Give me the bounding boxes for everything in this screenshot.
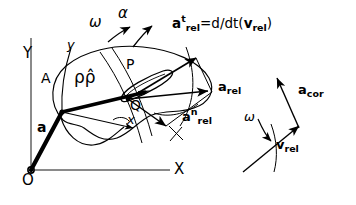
body-y-axis-label: y [67, 38, 75, 51]
a-rel-n-sub: rel [198, 115, 212, 126]
point-P-label: P [126, 57, 134, 71]
label-a-rel-n: anrel [182, 110, 212, 123]
y-axis-label: Y [23, 46, 32, 61]
inset-omega-arrow [258, 119, 271, 141]
rho-rho-hat-label: ρρ̂ [74, 69, 96, 86]
label-v-rel: vrel [276, 138, 299, 151]
a-rel-sub: rel [227, 85, 241, 96]
a-rel-n-sup: n [191, 106, 198, 117]
point-A-label: A [41, 71, 51, 85]
body-boundary-lower [61, 118, 124, 145]
vector-a-label: a [37, 120, 46, 134]
parallelogram-side-top [196, 58, 212, 92]
a-rel-symbol: a [218, 79, 227, 94]
vector-a-shaft [31, 112, 62, 170]
inset-a-cor-arrow [277, 78, 299, 128]
v-rel-sub: rel [284, 143, 298, 154]
point-Q-label: Q [130, 98, 141, 112]
body-fixed-axes [62, 48, 133, 128]
equation-a-rel-t: atrel=d/dt(vrel) [172, 17, 272, 31]
body-x-axis [62, 112, 133, 128]
coriolis-inset [243, 78, 299, 172]
body-x-axis-label: x [127, 113, 135, 126]
a-cor-sub: cor [307, 88, 324, 99]
kinematics-figure: Y X O A P Q y x ω α ρρ̂ a atrel=d/dt(vre… [0, 0, 356, 205]
label-a-rel: arel [218, 80, 241, 93]
a-rel-n-symbol: a [182, 109, 191, 124]
equation-lhs-sub: rel [186, 22, 200, 33]
rotation-arrows [108, 26, 152, 47]
inset-omega-label: ω [244, 110, 255, 123]
equation-operator: =d/dt( [200, 15, 244, 31]
origin-label: O [22, 173, 34, 188]
body-y-axis [62, 48, 71, 112]
alpha-arrow [133, 26, 152, 47]
global-axes [28, 38, 170, 173]
equation-lhs-symbol: a [172, 15, 181, 31]
alpha-label: α [118, 6, 128, 21]
curvature-arcs [100, 47, 193, 143]
equation-lhs-sup: t [181, 13, 186, 24]
label-a-cor: acor [298, 83, 324, 96]
x-axis-label: X [174, 162, 184, 177]
a-cor-symbol: a [298, 82, 307, 97]
omega-arrow [108, 27, 130, 42]
omega-label: ω [89, 15, 102, 30]
equation-rhs-sub: rel [252, 22, 266, 33]
equation-close-paren: ) [267, 15, 272, 31]
